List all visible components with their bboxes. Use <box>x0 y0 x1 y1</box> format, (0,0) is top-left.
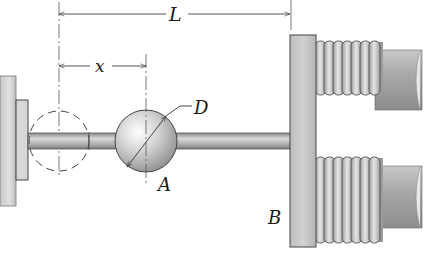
label-A: A <box>156 174 171 195</box>
label-B: B <box>267 207 281 228</box>
sphere-a <box>115 54 192 186</box>
wall-support <box>0 76 28 206</box>
label-L: L <box>168 3 182 25</box>
label-D: D <box>193 97 209 118</box>
label-x: x <box>95 56 105 76</box>
spring-upper <box>315 41 383 95</box>
dimension-x: x <box>59 56 146 76</box>
diagram-figure: L x D A <box>0 0 424 253</box>
dimension-L: L <box>59 0 291 30</box>
plate-b <box>290 35 316 247</box>
diameter-leader <box>166 106 192 116</box>
spring-lower <box>315 157 383 243</box>
